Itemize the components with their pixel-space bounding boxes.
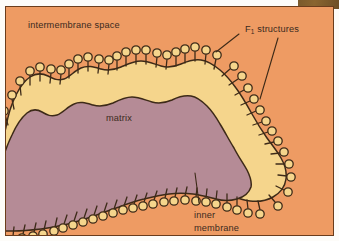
f1-particle [181,45,189,63]
figure-container: intermembrane space F1 structures matrix… [0,0,339,241]
label-f1-suffix: structures [254,24,299,34]
label-inner-membrane-line2: membrane [194,223,239,233]
label-intermembrane-space: intermembrane space [28,20,120,32]
f1-particle [172,48,180,66]
label-f1-structures: F1 structures [245,24,299,36]
f1-particle [213,51,221,69]
mitochondrion-membrane-diagram [6,7,334,236]
label-inner-membrane-line1: inner [194,210,215,220]
leader-line-f1-lower [260,38,278,99]
diagram-panel: intermembrane space F1 structures matrix… [5,6,334,236]
f1-particle [222,62,238,76]
leader-line-f1-upper [216,34,239,52]
f1-particle [191,43,199,61]
label-f1-prefix: F [245,24,251,34]
f1-particle [229,72,246,85]
label-matrix: matrix [106,113,132,125]
label-f1-subscript: 1 [251,28,255,35]
label-inner-membrane: innermembrane [194,209,284,234]
f1-particle [269,195,282,210]
